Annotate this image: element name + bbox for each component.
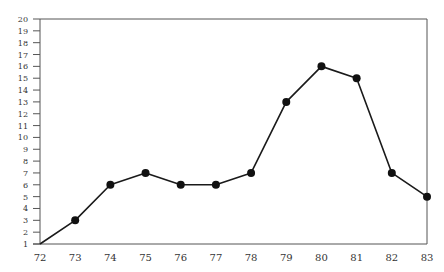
- y-tick-label: 5: [23, 193, 28, 202]
- y-tick-label: 7: [23, 169, 28, 178]
- series-line: [40, 66, 427, 244]
- x-tick-label: 82: [385, 252, 398, 263]
- x-tick-label: 73: [69, 252, 82, 263]
- x-tick-label: 72: [34, 252, 47, 263]
- data-point: [353, 74, 361, 82]
- y-tick-label: 9: [23, 145, 28, 154]
- line-chart: 1234567891011121314151617181920 72737475…: [0, 0, 444, 272]
- y-tick-label: 17: [18, 51, 28, 60]
- y-tick-label: 1: [23, 240, 28, 249]
- series-group: [40, 62, 431, 244]
- y-tick-label: 4: [23, 204, 28, 213]
- data-point: [282, 98, 290, 106]
- data-point: [388, 169, 396, 177]
- data-point: [423, 193, 431, 201]
- y-tick-label: 18: [18, 39, 28, 48]
- y-tick-label: 11: [18, 122, 28, 131]
- x-tick-label: 74: [104, 252, 117, 263]
- y-tick-label: 14: [18, 86, 28, 95]
- y-tick-label: 2: [23, 228, 28, 237]
- x-tick-label: 81: [350, 252, 363, 263]
- x-axis: 727374757677787980818283: [33, 244, 433, 263]
- y-tick-label: 19: [18, 27, 28, 36]
- data-point: [247, 169, 255, 177]
- data-point: [106, 181, 114, 189]
- x-tick-label: 79: [280, 252, 293, 263]
- x-tick-label: 76: [174, 252, 187, 263]
- y-axis: 1234567891011121314151617181920: [18, 15, 40, 249]
- x-tick-label: 75: [139, 252, 152, 263]
- y-tick-label: 16: [18, 62, 28, 71]
- y-tick-label: 15: [18, 74, 28, 83]
- data-point: [177, 181, 185, 189]
- y-tick-label: 3: [23, 216, 28, 225]
- data-point: [317, 62, 325, 70]
- x-tick-label: 83: [421, 252, 434, 263]
- x-tick-label: 78: [245, 252, 258, 263]
- data-point: [142, 169, 150, 177]
- y-tick-label: 6: [23, 181, 28, 190]
- y-tick-label: 12: [18, 110, 28, 119]
- y-tick-label: 8: [23, 157, 28, 166]
- data-point: [71, 216, 79, 224]
- data-point: [212, 181, 220, 189]
- y-tick-label: 20: [18, 15, 28, 24]
- y-tick-label: 10: [18, 133, 28, 142]
- x-tick-label: 80: [315, 252, 328, 263]
- y-tick-label: 13: [18, 98, 28, 107]
- x-tick-label: 77: [210, 252, 223, 263]
- plot-frame: [40, 19, 427, 244]
